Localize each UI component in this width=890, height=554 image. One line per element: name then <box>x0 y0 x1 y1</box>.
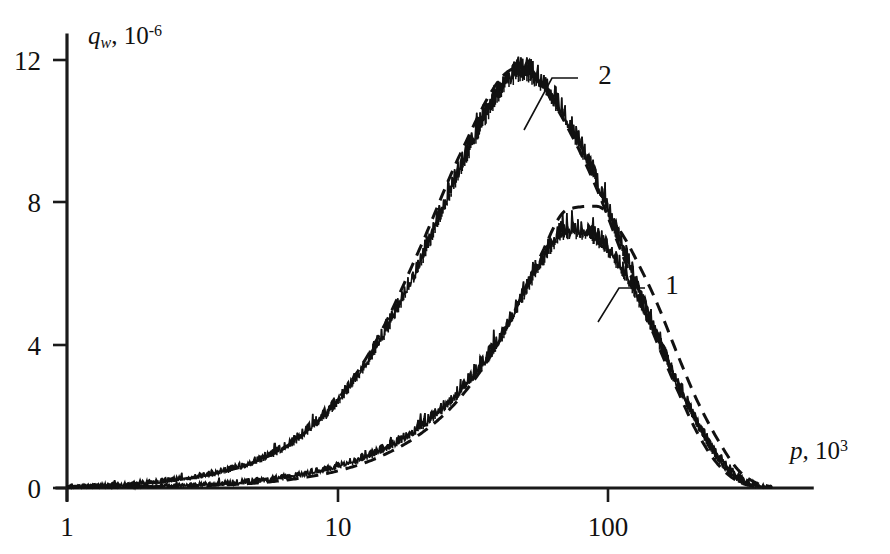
ylabel-subscript: w <box>101 34 112 51</box>
ylabel-symbol: q <box>88 22 101 49</box>
chart-canvas: 04812110100 21 <box>0 0 890 554</box>
xlabel-exponent: 3 <box>840 437 848 454</box>
ylabel-mantissa: 10 <box>124 22 149 49</box>
xlabel-mantissa: 10 <box>815 437 840 464</box>
ylabel-comma: , <box>111 22 117 49</box>
xlabel-symbol: p, <box>790 437 809 464</box>
x-tick-label-1: 1 <box>60 512 74 542</box>
ylabel-block: qw, 10-6 <box>88 22 162 52</box>
y-tick-label-0: 0 <box>28 474 42 504</box>
xlabel-block: p, 103 <box>790 437 848 465</box>
curve-label-1: 1 <box>665 270 679 300</box>
y-tick-label-4: 4 <box>28 331 42 361</box>
x-tick-label-100: 100 <box>588 512 629 542</box>
ylabel-exponent: -6 <box>149 22 162 39</box>
x-tick-label-10: 10 <box>325 512 352 542</box>
tick-group: 04812110100 <box>14 46 628 542</box>
leader-line-1 <box>598 288 645 322</box>
y-tick-label-12: 12 <box>14 46 41 76</box>
figure-root: 04812110100 21 qw, 10-6 p, 103 <box>0 0 890 554</box>
y-tick-label-8: 8 <box>28 188 42 218</box>
curve-label-2: 2 <box>598 60 612 90</box>
